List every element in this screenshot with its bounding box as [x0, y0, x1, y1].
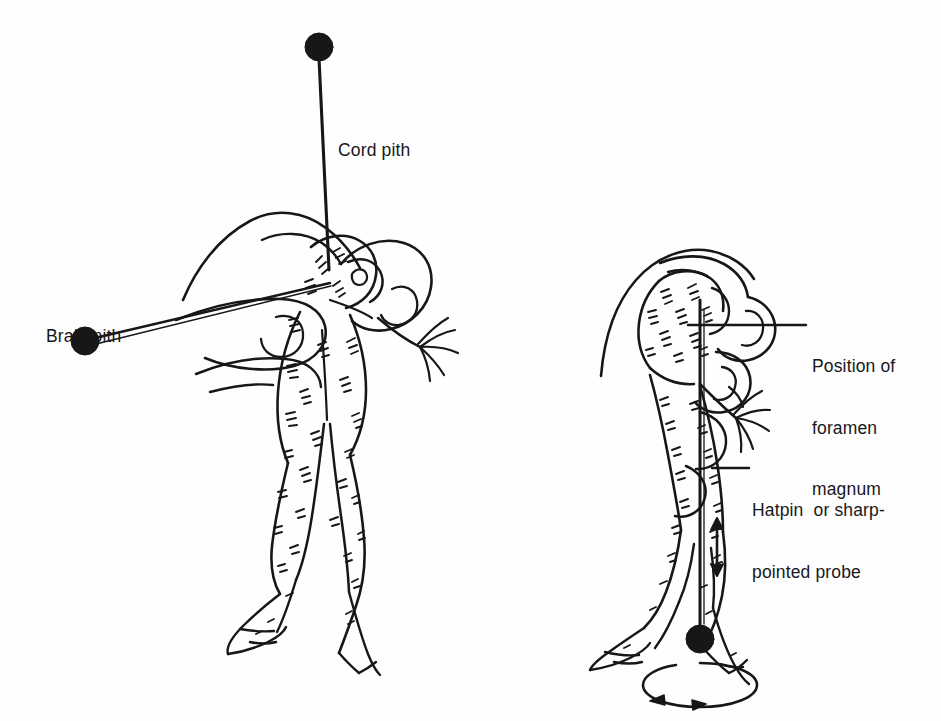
- label-brain-pith-line1: Brain pith: [46, 326, 121, 347]
- hatpin-probe-pinhead: [686, 625, 714, 653]
- label-foramen-line2: foramen: [812, 418, 895, 439]
- label-foramen-line1: Position of: [812, 356, 895, 377]
- label-cord-pith-line1: Cord pith: [338, 140, 410, 161]
- cord-pith-pinhead: [305, 33, 333, 61]
- label-cord-pith: Cord pith: [338, 99, 410, 202]
- label-brain-pith: Brain pith: [46, 285, 121, 388]
- label-hatpin-or-sharp-pointed-probe: Hatpin or sharp- pointed probe: [752, 459, 885, 623]
- label-hatpin-line1: Hatpin or sharp-: [752, 500, 885, 521]
- frog-pithing-figure: Cord pith Brain pith Position of foramen…: [0, 0, 941, 721]
- label-hatpin-line2: pointed probe: [752, 562, 885, 583]
